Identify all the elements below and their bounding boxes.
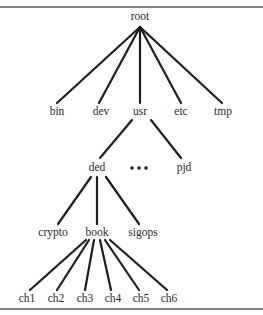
node-crypto: crypto	[38, 226, 68, 239]
edge-ded-sigops	[106, 177, 139, 224]
node-ch6: ch6	[161, 292, 178, 304]
node-pjd: pjd	[177, 161, 192, 174]
edge-ded-crypto	[58, 177, 91, 224]
directory-tree-diagram: root bin dev usr etc tmp ded pjd crypto …	[0, 0, 263, 315]
node-ch5: ch5	[133, 292, 150, 304]
edge-book-ch1	[30, 240, 86, 290]
node-tmp: tmp	[214, 105, 232, 118]
edge-book-ch2	[57, 240, 89, 290]
edge-root-tmp	[140, 27, 222, 103]
edges-book	[30, 240, 167, 290]
node-root: root	[131, 10, 150, 22]
edge-usr-ded	[100, 120, 132, 158]
ellipsis-icon	[130, 166, 148, 170]
node-ch4: ch4	[105, 292, 122, 304]
edge-root-etc	[140, 27, 181, 103]
edge-root-bin	[57, 27, 140, 103]
edge-book-ch3	[85, 240, 94, 290]
node-sigops: sigops	[128, 226, 158, 239]
node-book: book	[86, 226, 109, 238]
edges-usr	[100, 120, 181, 158]
node-ch1: ch1	[19, 292, 36, 304]
edges-root	[57, 27, 222, 103]
edge-book-ch6	[110, 240, 167, 290]
edge-usr-pjd	[151, 120, 181, 158]
node-dev: dev	[93, 105, 110, 117]
node-etc: etc	[174, 105, 187, 117]
edges-ded	[58, 177, 139, 224]
node-ch2: ch2	[48, 292, 65, 304]
edge-root-dev	[99, 27, 140, 103]
node-bin: bin	[50, 105, 65, 117]
node-ded: ded	[89, 161, 106, 173]
node-ch3: ch3	[77, 292, 94, 304]
node-usr: usr	[133, 105, 147, 117]
